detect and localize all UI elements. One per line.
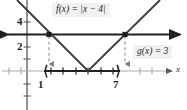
intersection-point-left [46,32,51,37]
x-tick-label-7: 7 [113,79,119,90]
solution-interval-segment [44,65,120,78]
intersection-point-right [122,32,127,37]
y-tick-label-2: 2 [17,41,23,52]
figure-container: f(x) = |x − 4| g(x) = 3 4 2 1 7 x [0,0,187,110]
dashed-guides [49,36,125,64]
g-function-label: g(x) = 3 [133,45,172,59]
y-axis [24,0,31,110]
f-function-label: f(x) = |x − 4| [52,3,110,17]
y-tick-label-4: 4 [17,16,23,27]
x-tick-label-1: 1 [38,79,44,90]
x-axis-label: x [176,65,180,74]
